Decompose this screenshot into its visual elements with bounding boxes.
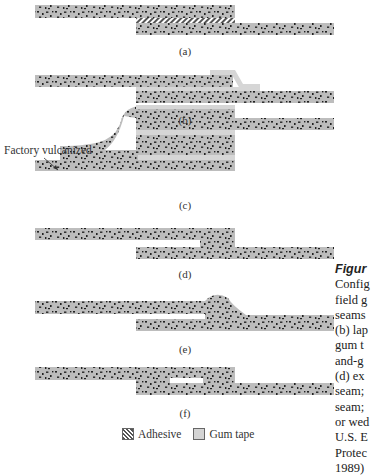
factory-vulcanized-annotation: Factory vulcanized (4, 144, 92, 156)
panel-a (35, 5, 334, 35)
panel-label-c: (c) (165, 199, 205, 211)
caption-line: gum t (335, 338, 370, 353)
caption-line: seam; (335, 384, 370, 399)
caption-line: seam; (335, 400, 370, 415)
panel-d (35, 228, 334, 259)
legend-adhesive-label: Adhesive (138, 428, 181, 440)
caption-line: Config (335, 277, 370, 292)
caption-line: or wed (335, 415, 370, 430)
gum-tape-swatch-icon (193, 428, 205, 440)
panel-e (35, 295, 334, 331)
panel-f (35, 367, 334, 395)
adhesive-swatch-icon (122, 428, 134, 440)
panel-label-f: (f) (165, 407, 205, 419)
caption-line: (b) lap (335, 323, 370, 338)
caption-line: (d) ex (335, 369, 370, 384)
panel-b (35, 70, 334, 103)
caption-line: Protec (335, 446, 370, 461)
caption-title: Figur (335, 262, 370, 277)
caption-line: 1989) (335, 461, 370, 476)
caption-line: and-g (335, 354, 370, 369)
caption-line: seams (335, 308, 370, 323)
caption-line: U.S. E (335, 430, 370, 445)
panel-label-b: (b) (165, 114, 205, 126)
legend-gum-tape-label: Gum tape (209, 428, 254, 440)
panel-label-a: (a) (165, 45, 205, 57)
caption-line: field g (335, 293, 370, 308)
panel-label-e: (e) (165, 343, 205, 355)
figure-legend: Adhesive Gum tape (122, 428, 254, 440)
panel-label-d: (d) (165, 268, 205, 280)
figure-caption: Figur Config field g seams (b) lap gum t… (335, 262, 370, 476)
